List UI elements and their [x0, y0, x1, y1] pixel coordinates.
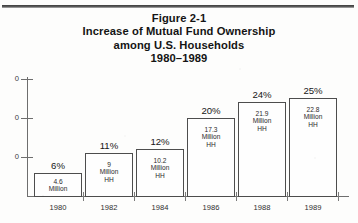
y-axis-tick-10: [21, 157, 33, 158]
bar-inner-line3-1984: HH: [155, 172, 165, 179]
x-axis-label-1980: 1980: [36, 203, 80, 212]
bar-1986[interactable]: 17.3 Million HH: [187, 118, 235, 197]
x-axis-label-1989: 1989: [291, 203, 335, 212]
bar-1988[interactable]: 21.9 Million HH: [238, 102, 286, 197]
bar-inner-label-1989: 22.8 Million HH: [290, 106, 336, 128]
bar-value-label-1982: 11%: [85, 140, 133, 151]
bar-inner-line3-1988: HH: [257, 125, 267, 132]
x-axis-label-1982: 1982: [87, 203, 131, 212]
y-axis-tick-30: [21, 79, 33, 80]
bar-1989[interactable]: 22.8 Million HH: [289, 98, 337, 197]
x-axis-tick-5: [338, 192, 339, 201]
bar-value-label-1986: 20%: [187, 105, 235, 116]
x-axis-tick-3: [236, 192, 237, 201]
bar-value-label-1989: 25%: [289, 85, 337, 96]
figure-page: Figure 2-1 Increase of Mutual Fund Owner…: [0, 0, 358, 223]
y-axis-tick-label-20: 0: [0, 114, 19, 122]
bar-1982[interactable]: 9 Million HH: [85, 153, 133, 197]
bar-1980[interactable]: 4.6 Million: [34, 173, 82, 197]
bar-inner-label-1986: 17.3 Million HH: [188, 126, 234, 148]
bar-inner-line2-1989: Million: [304, 113, 323, 120]
x-axis-tick-1: [134, 192, 135, 201]
bar-inner-line3-1989: HH: [308, 121, 318, 128]
x-axis-label-1984: 1984: [138, 203, 182, 212]
bar-inner-label-1988: 21.9 Million HH: [239, 110, 285, 132]
bar-inner-label-1984: 10.2 Million HH: [137, 157, 183, 179]
y-axis-tick-label-30: 0: [0, 75, 19, 83]
bar-1984[interactable]: 10.2 Million HH: [136, 149, 184, 197]
bar-value-label-1984: 12%: [136, 136, 184, 147]
bar-inner-line2-1988: Million: [253, 117, 272, 124]
bar-inner-line1-1984: 10.2: [154, 157, 167, 164]
bar-inner-label-1982: 9 Million HH: [86, 161, 132, 183]
bar-inner-line2-1984: Million: [151, 164, 170, 171]
bar-inner-label-1980: 4.6 Million: [35, 178, 81, 193]
bar-inner-line1-1980: 4.6: [53, 178, 62, 185]
x-axis-tick-2: [185, 192, 186, 201]
bar-inner-line2-1980: Million: [49, 185, 68, 192]
x-axis-label-1986: 1986: [189, 203, 233, 212]
x-axis-tick-4: [287, 192, 288, 201]
y-axis-line: [27, 77, 28, 197]
bar-chart-plot-area: 0 0 0 6% 4.6 Million 11% 9 Million HH 12…: [0, 0, 358, 223]
bar-inner-line3-1982: HH: [104, 176, 114, 183]
bar-inner-line3-1986: HH: [206, 141, 216, 148]
bar-inner-line1-1989: 22.8: [307, 106, 320, 113]
y-axis-tick-20: [21, 118, 33, 119]
x-axis-tick-0: [83, 192, 84, 201]
bar-inner-line2-1986: Million: [202, 133, 221, 140]
bar-value-label-1980: 6%: [34, 160, 82, 171]
y-axis-tick-label-10: 0: [0, 153, 19, 161]
bar-inner-line1-1986: 17.3: [205, 126, 218, 133]
x-axis-label-1988: 1988: [240, 203, 284, 212]
bar-inner-line2-1982: Million: [100, 168, 119, 175]
bar-value-label-1988: 24%: [238, 89, 286, 100]
bar-inner-line1-1988: 21.9: [256, 110, 269, 117]
bar-inner-line1-1982: 9: [107, 161, 111, 168]
